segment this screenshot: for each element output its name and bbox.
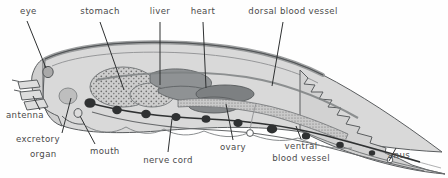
- label-heart: heart: [191, 6, 216, 17]
- label-nerve-cord: nerve cord: [143, 155, 193, 166]
- label-mouth: mouth: [90, 146, 120, 157]
- anatomy-figure: eye stomach liver heart dorsal blood ves…: [0, 0, 448, 178]
- label-ovary: ovary: [220, 142, 246, 153]
- label-anus: anus: [388, 150, 410, 161]
- leader-eye: [27, 21, 46, 68]
- label-excretory: excretory: [16, 134, 60, 145]
- mouth-structure: [74, 109, 82, 118]
- label-liver: liver: [150, 6, 170, 17]
- label-ventral: ventral: [285, 141, 318, 152]
- eye-structure: [43, 66, 53, 77]
- label-eye: eye: [20, 6, 37, 17]
- excretory-organ-structure: [59, 88, 77, 104]
- label-organ: organ: [30, 149, 57, 160]
- gonopore-structure: [247, 130, 254, 137]
- label-dorsal-blood-vessel: dorsal blood vessel: [248, 6, 337, 17]
- label-stomach: stomach: [80, 6, 119, 17]
- label-blood-vessel: blood vessel: [272, 153, 330, 164]
- label-antenna: antenna: [6, 110, 44, 121]
